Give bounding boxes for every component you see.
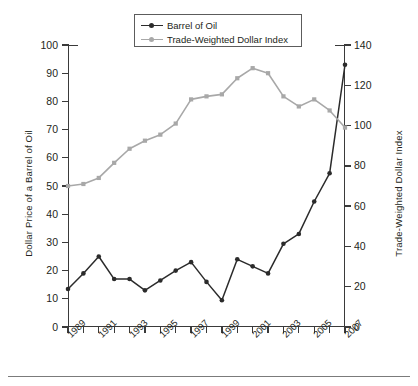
data-point-marker (343, 125, 347, 129)
legend-label: Trade-Weighted Dollar Index (167, 34, 288, 45)
data-point-marker (281, 242, 286, 247)
data-point-marker (143, 139, 147, 143)
data-point-marker (112, 161, 116, 165)
data-point-marker (204, 94, 208, 98)
footer-divider (8, 376, 410, 377)
data-point-marker (297, 104, 301, 108)
data-point-marker (127, 277, 132, 282)
data-point-marker (220, 92, 224, 96)
data-point-marker (127, 147, 131, 151)
data-point-marker (343, 62, 348, 67)
series-line-barrel-of-oil (68, 65, 345, 300)
data-point-marker (266, 271, 271, 276)
data-point-marker (250, 264, 255, 269)
legend-item-trade-weighted-dollar-index: Trade-Weighted Dollar Index (141, 32, 295, 46)
data-point-marker (312, 199, 317, 204)
data-point-marker (189, 260, 194, 265)
data-point-marker (220, 298, 225, 303)
data-point-marker (112, 277, 117, 282)
data-point-marker (81, 182, 85, 186)
chart-figure: Dollar Price of a Barrel of Oil Trade-We… (0, 0, 418, 386)
data-point-marker (235, 257, 240, 262)
legend-marker-line-icon (141, 34, 163, 44)
data-point-marker (235, 76, 239, 80)
data-point-marker (66, 287, 71, 292)
legend-label: Barrel of Oil (167, 20, 217, 31)
data-point-marker (297, 232, 302, 237)
data-point-marker (158, 278, 163, 283)
data-point-marker (66, 184, 70, 188)
data-point-marker (81, 271, 86, 276)
data-point-marker (174, 121, 178, 125)
data-point-marker (312, 97, 316, 101)
data-point-marker (158, 133, 162, 137)
data-point-marker (143, 288, 148, 293)
data-point-marker (204, 280, 209, 285)
series-line-dollar-index (68, 68, 345, 186)
legend-item-barrel-of-oil: Barrel of Oil (141, 18, 295, 32)
data-point-marker (173, 268, 178, 273)
chart-legend: Barrel of Oil Trade-Weighted Dollar Inde… (134, 14, 302, 47)
data-point-marker (328, 108, 332, 112)
series-layer (0, 0, 418, 386)
data-point-marker (97, 176, 101, 180)
data-point-marker (189, 97, 193, 101)
data-point-marker (327, 171, 332, 176)
data-point-marker (281, 94, 285, 98)
data-point-marker (266, 71, 270, 75)
data-point-marker (251, 66, 255, 70)
legend-marker-line-icon (141, 20, 163, 30)
data-point-marker (96, 254, 101, 259)
